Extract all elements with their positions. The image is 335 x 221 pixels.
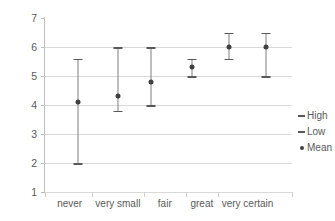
y-axis-tick-mark	[41, 105, 45, 106]
low-marker-icon	[296, 131, 307, 133]
error-bar-high-cap	[74, 59, 83, 61]
mean-data-point	[115, 94, 120, 99]
x-axis-tick-mark	[186, 192, 187, 197]
gridline	[45, 105, 292, 106]
gridline	[45, 47, 292, 48]
y-axis-tick-label: 5	[0, 71, 37, 82]
y-axis-tick-label: 2	[0, 158, 37, 169]
legend-item-low: Low	[296, 124, 335, 140]
error-bar	[78, 59, 79, 163]
x-axis-tick-mark	[218, 192, 219, 197]
x-axis-tick-mark	[92, 192, 93, 197]
y-axis-tick-label: 3	[0, 129, 37, 140]
high-marker-icon	[296, 115, 307, 117]
error-bar-high-cap	[262, 33, 271, 35]
legend-label-low: Low	[307, 127, 325, 137]
chart-legend: High Low Mean	[296, 108, 335, 156]
legend-label-high: High	[307, 111, 328, 121]
error-bar	[117, 47, 118, 111]
y-axis-tick-mark	[41, 47, 45, 48]
x-axis-tick-mark	[144, 192, 145, 197]
y-axis-tick-mark	[41, 134, 45, 135]
y-axis-tick-label: 1	[0, 187, 37, 198]
x-axis-category-label: never	[57, 198, 82, 209]
legend-label-mean: Mean	[307, 143, 332, 153]
error-bar-low-cap	[187, 76, 196, 78]
x-axis-tick-mark	[292, 192, 293, 197]
mean-marker-icon	[296, 146, 307, 150]
x-axis-category-label: great	[190, 198, 213, 209]
chart-container: 1234567 neververy smallfairgreatvery cer…	[0, 0, 335, 221]
legend-item-high: High	[296, 108, 335, 124]
error-bar-low-cap	[262, 76, 271, 78]
error-bar	[151, 47, 152, 105]
y-axis-tick-label: 4	[0, 100, 37, 111]
mean-data-point	[227, 45, 232, 50]
error-bar-high-cap	[113, 47, 122, 49]
gridline	[45, 134, 292, 135]
mean-data-point	[149, 79, 154, 84]
mean-data-point	[264, 45, 269, 50]
gridline	[45, 192, 292, 193]
error-bar-low-cap	[147, 105, 156, 107]
error-bar-high-cap	[147, 47, 156, 49]
y-axis-tick-mark	[41, 18, 45, 19]
error-bar-low-cap	[74, 163, 83, 165]
x-axis-category-label: very small	[95, 198, 140, 209]
x-axis-category-label: very certain	[222, 198, 274, 209]
legend-item-mean: Mean	[296, 140, 335, 156]
error-bar-low-cap	[225, 59, 234, 61]
error-bar-high-cap	[225, 33, 234, 35]
y-axis-tick-label: 7	[0, 13, 37, 24]
x-axis-tick-mark	[45, 192, 46, 197]
x-axis-category-label: fair	[158, 198, 172, 209]
mean-data-point	[189, 65, 194, 70]
y-axis-tick-mark	[41, 163, 45, 164]
gridline	[45, 76, 292, 77]
y-axis-tick-label: 6	[0, 42, 37, 53]
y-axis-tick-mark	[41, 76, 45, 77]
error-bar-low-cap	[113, 111, 122, 113]
error-bar-high-cap	[187, 59, 196, 61]
mean-data-point	[76, 100, 81, 105]
error-bar	[266, 33, 267, 77]
